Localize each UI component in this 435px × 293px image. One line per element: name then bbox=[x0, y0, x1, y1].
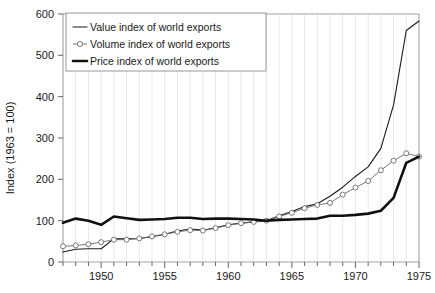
series-marker bbox=[340, 192, 345, 197]
series-marker bbox=[162, 232, 167, 237]
series-marker bbox=[226, 223, 231, 228]
series-marker bbox=[175, 229, 180, 234]
series-marker bbox=[61, 244, 66, 249]
x-tick-label: 1960 bbox=[216, 270, 240, 282]
series-marker bbox=[137, 236, 142, 241]
chart-legend: Value index of world exportsVolume index… bbox=[66, 13, 266, 71]
series-marker bbox=[86, 242, 91, 247]
series-marker bbox=[111, 237, 116, 242]
y-tick-label: 600 bbox=[36, 8, 54, 20]
y-tick-label: 500 bbox=[36, 49, 54, 61]
series-marker bbox=[200, 228, 205, 233]
chart-figure: 195019551960196519701975 600500400300200… bbox=[0, 0, 435, 293]
series-marker bbox=[99, 240, 104, 245]
y-tick-label: 100 bbox=[36, 215, 54, 227]
y-tick-label: 200 bbox=[36, 173, 54, 185]
series-marker bbox=[391, 158, 396, 163]
y-tick-label: 0 bbox=[48, 256, 54, 268]
series-marker bbox=[289, 210, 294, 215]
legend-swatch-marker bbox=[77, 41, 82, 46]
series-marker bbox=[353, 185, 358, 190]
series-marker bbox=[150, 234, 155, 239]
series-marker bbox=[315, 202, 320, 207]
x-tick-label: 1955 bbox=[152, 270, 176, 282]
line-chart: 195019551960196519701975 600500400300200… bbox=[0, 0, 435, 293]
series-marker bbox=[366, 178, 371, 183]
series-marker bbox=[213, 226, 218, 231]
series-marker bbox=[328, 200, 333, 205]
legend-item-3: Price index of world exports bbox=[73, 55, 219, 67]
x-tick-label: 1970 bbox=[343, 270, 367, 282]
legend-label: Value index of world exports bbox=[90, 21, 221, 33]
series-marker bbox=[378, 168, 383, 173]
series-marker bbox=[124, 237, 129, 242]
x-tick-label: 1950 bbox=[89, 270, 113, 282]
y-axis-title: Index (1963 = 100) bbox=[4, 102, 16, 195]
x-tick-label: 1965 bbox=[280, 270, 304, 282]
legend-label: Volume index of world exports bbox=[90, 38, 230, 50]
legend-label: Price index of world exports bbox=[90, 55, 219, 67]
y-tick-label: 400 bbox=[36, 91, 54, 103]
series-marker bbox=[277, 214, 282, 219]
series-marker bbox=[188, 228, 193, 233]
series-marker bbox=[239, 221, 244, 226]
legend-item-2: Volume index of world exports bbox=[73, 38, 230, 50]
series-marker bbox=[404, 151, 409, 156]
series-marker bbox=[302, 206, 307, 211]
series-marker bbox=[73, 243, 78, 248]
x-tick-label: 1975 bbox=[407, 270, 431, 282]
legend-item-1: Value index of world exports bbox=[73, 21, 221, 33]
y-tick-label: 300 bbox=[36, 132, 54, 144]
